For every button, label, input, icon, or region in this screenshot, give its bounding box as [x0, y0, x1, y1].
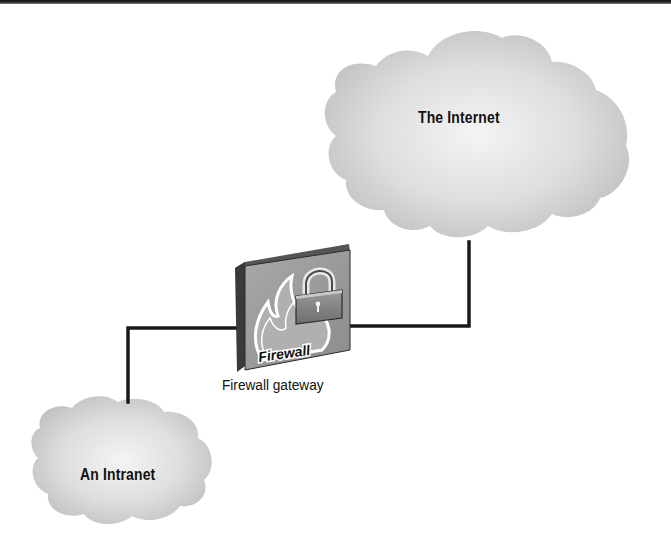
intranet-label: An Intranet: [80, 465, 155, 485]
intranet-to-firewall-line: [128, 328, 236, 402]
intranet-cloud: [31, 396, 211, 524]
internet-cloud: [325, 31, 629, 237]
firewall-device: Firewall: [235, 244, 350, 372]
internet-label: The Internet: [418, 108, 500, 128]
gateway-label: Firewall gateway: [222, 376, 324, 394]
